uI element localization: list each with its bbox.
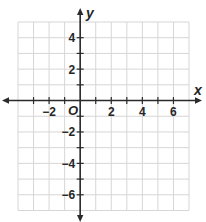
y-tick-label: −6: [61, 188, 75, 202]
x-axis-arrow-right-icon: [195, 97, 202, 103]
y-tick-label: −4: [61, 157, 75, 171]
y-tick-label: 2: [68, 63, 75, 77]
y-axis-label: y: [85, 5, 95, 21]
x-axis-label: x: [193, 82, 203, 98]
y-axis-arrow-down-icon: [77, 215, 83, 222]
y-tick-label: −2: [61, 125, 75, 139]
origin-label: O: [68, 103, 78, 118]
x-axis-arrow-left-icon: [2, 97, 9, 103]
x-tick-label: 6: [170, 105, 177, 119]
y-tick-label: 4: [68, 31, 75, 45]
x-tick-label: −2: [42, 105, 56, 119]
x-tick-label: 2: [108, 105, 115, 119]
y-axis-arrow-up-icon: [77, 8, 83, 15]
x-tick-label: 4: [139, 105, 146, 119]
coordinate-plane: −224642−2−4−6 x y O: [0, 0, 206, 222]
